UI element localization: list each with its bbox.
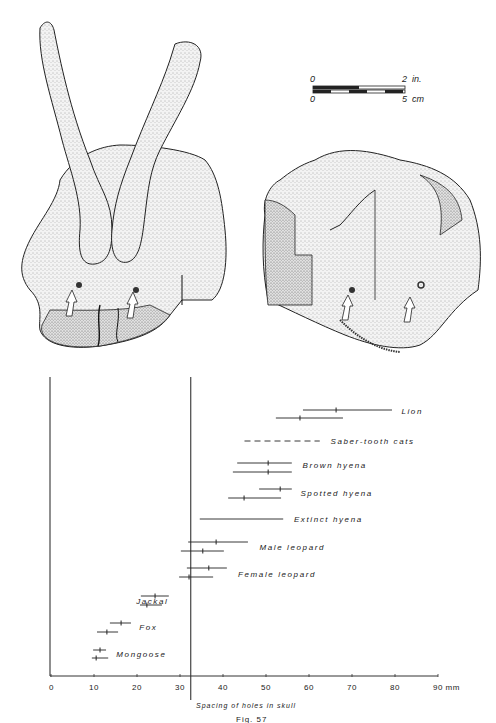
skull-fragment-left — [22, 22, 226, 347]
skull-illustrations — [0, 0, 496, 370]
species-label-male-leopard: Male leopard — [260, 543, 325, 552]
chart-species-labels: LionSaber-tooth catsBrown hyenaSpotted h… — [116, 407, 423, 659]
x-tick-label: 80 — [390, 683, 400, 692]
species-label-saber-tooth-cats: Saber-tooth cats — [331, 437, 415, 446]
puncture-hole — [349, 287, 355, 293]
chart-axes: 0102030405060708090 mm — [49, 377, 460, 700]
scale-label-cm-max: 5 cm — [402, 94, 424, 104]
species-label-extinct-hyena: Extinct hyena — [294, 515, 363, 524]
x-tick-label: 30 — [175, 683, 185, 692]
puncture-hole — [76, 282, 82, 288]
spacing-range-chart: 0102030405060708090 mm LionSaber-tooth c… — [0, 370, 496, 723]
x-tick-label: 20 — [132, 683, 142, 692]
species-label-brown-hyena: Brown hyena — [303, 461, 367, 470]
species-label-lion: Lion — [401, 407, 423, 416]
species-label-mongoose: Mongoose — [116, 650, 166, 659]
x-tick-label: 90 mm — [433, 683, 460, 692]
species-label-jackal: Jackal — [135, 597, 168, 606]
x-tick-label: 0 — [49, 683, 54, 692]
scale-label-inch-max: 2 in. — [402, 74, 422, 84]
skull-fragment-right — [263, 151, 480, 352]
species-label-female-leopard: Female leopard — [238, 570, 316, 579]
species-label-spotted-hyena: Spotted hyena — [300, 489, 372, 498]
scale-label-cm-zero: 0 — [310, 94, 315, 104]
x-tick-label: 50 — [261, 683, 271, 692]
x-axis-title: Spacing of holes in skull — [196, 702, 296, 710]
x-tick-label: 70 — [347, 683, 357, 692]
scale-bar — [313, 86, 405, 93]
x-tick-label: 10 — [89, 683, 99, 692]
puncture-hole — [133, 287, 139, 293]
x-tick-label: 40 — [218, 683, 228, 692]
scale-label-inch-zero: 0 — [310, 74, 315, 84]
x-tick-label: 60 — [304, 683, 314, 692]
figure-caption: Fig. 57 — [236, 715, 267, 723]
species-label-fox: Fox — [139, 623, 157, 632]
